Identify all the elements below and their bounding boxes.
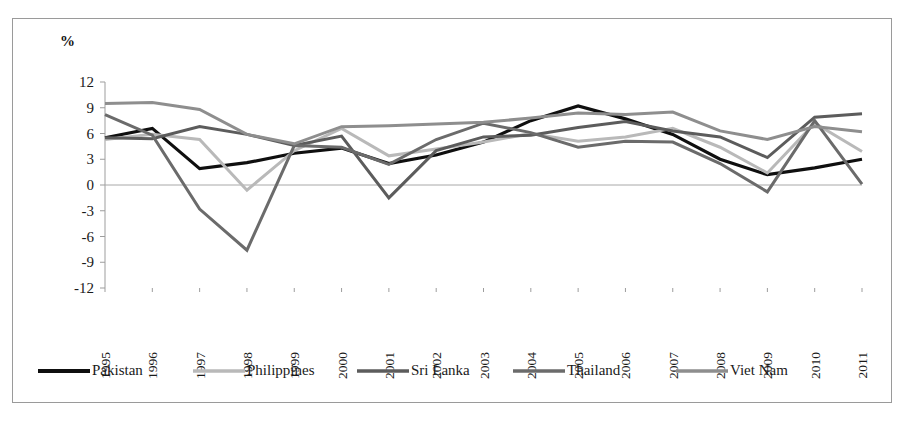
legend-label: Sri Lanka xyxy=(411,362,470,378)
x-axis-tick-label: 1996 xyxy=(145,352,160,379)
x-axis-tick-label: 2003 xyxy=(477,352,492,379)
y-axis-tick-label: 12 xyxy=(79,74,94,90)
x-axis-tick-label: 2010 xyxy=(808,352,823,379)
x-axis-tick-label: 2004 xyxy=(524,352,539,379)
x-axis-tick-label: 2000 xyxy=(335,352,350,379)
y-axis-tick-label: 0 xyxy=(87,177,95,193)
y-axis-tick-label: 6 xyxy=(87,126,95,142)
legend-label: Philippines xyxy=(247,362,315,378)
legend-item-philippines: Philippines xyxy=(193,362,315,378)
y-axis-tick-label: -3 xyxy=(82,203,95,219)
y-axis-tick-label: -6 xyxy=(82,229,95,245)
x-axis-tick-label: 2011 xyxy=(855,352,870,379)
series-line-pakistan xyxy=(105,106,862,175)
legend-label: Pakistan xyxy=(92,362,143,378)
y-axis-tick-label: -12 xyxy=(74,280,94,296)
y-axis-tick-label: 3 xyxy=(87,151,95,167)
legend-item-pakistan: Pakistan xyxy=(38,362,143,378)
legend-item-viet-nam: Viet Nam xyxy=(676,362,788,378)
line-chart: 129630-3-6-9-121995199619971998199920002… xyxy=(0,0,910,424)
legend-label: Viet Nam xyxy=(730,362,788,378)
legend-item-sri-lanka: Sri Lanka xyxy=(357,362,470,378)
x-axis-tick-label: 2008 xyxy=(713,352,728,379)
y-axis-tick-label: -9 xyxy=(82,254,95,270)
x-axis-tick-label: 1997 xyxy=(193,352,208,379)
chart-container: % 129630-3-6-9-1219951996199719981999200… xyxy=(0,0,910,424)
x-axis-tick-label: 2001 xyxy=(382,352,397,379)
x-axis-tick-label: 2007 xyxy=(666,352,681,379)
y-axis-tick-label: 9 xyxy=(87,100,95,116)
x-axis-tick-label: 2006 xyxy=(618,352,633,379)
legend-label: Thailand xyxy=(567,362,621,378)
